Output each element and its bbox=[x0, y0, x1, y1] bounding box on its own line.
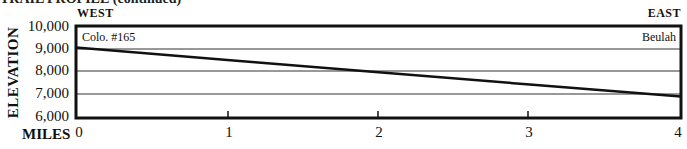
x-tick-4: 4 bbox=[668, 124, 687, 141]
start-location-label: Colo. #165 bbox=[82, 30, 135, 45]
elevation-profile-line bbox=[76, 48, 681, 97]
x-tick-3: 3 bbox=[519, 124, 539, 141]
plot-area bbox=[0, 0, 687, 149]
x-tick-1: 1 bbox=[219, 124, 239, 141]
end-location-label: Beulah bbox=[642, 30, 676, 45]
x-axis-label: MILES bbox=[22, 126, 70, 143]
x-tick-0: 0 bbox=[69, 124, 89, 141]
x-tick-2: 2 bbox=[369, 124, 389, 141]
